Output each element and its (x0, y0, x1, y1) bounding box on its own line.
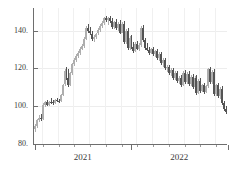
candle-body (101, 23, 103, 26)
gridline-vertical (73, 8, 74, 144)
y-axis-tick (34, 106, 38, 107)
gridline-vertical (152, 8, 153, 144)
gridline-vertical (199, 8, 200, 144)
candle-body (205, 86, 207, 92)
y-axis-tick (34, 31, 38, 32)
x-axis-minor-tick (122, 145, 123, 147)
candle-body (79, 49, 81, 54)
candle-body (66, 71, 68, 78)
x-axis-line (33, 144, 227, 145)
candle-body (60, 95, 62, 102)
gridline-vertical (42, 8, 43, 144)
x-axis-minor-tick (185, 145, 186, 147)
candle-body (131, 38, 133, 47)
candle-body (221, 89, 223, 103)
candle-body (73, 60, 75, 64)
gridline-vertical (58, 8, 59, 144)
candle-body (93, 37, 95, 39)
gridline-vertical (105, 8, 106, 144)
candle-body (138, 45, 140, 49)
y-axis-label: 80. (2, 140, 28, 148)
candle-body (34, 126, 36, 129)
x-axis-minor-tick (137, 145, 138, 147)
y-axis-label: 140. (2, 27, 28, 35)
candle-body (36, 120, 38, 126)
x-axis-minor-tick (74, 145, 75, 147)
candle-body (62, 85, 64, 95)
candle-body (42, 105, 44, 119)
x-axis-minor-tick (169, 145, 170, 147)
plot-area (34, 8, 227, 144)
candle-body (95, 34, 97, 38)
candle-body (144, 40, 146, 48)
x-axis-tick (131, 145, 132, 150)
candle-body (97, 30, 99, 34)
gridline-vertical (168, 8, 169, 144)
candle-body (75, 56, 77, 60)
x-axis-minor-tick (43, 145, 44, 147)
candle-body (142, 28, 144, 40)
x-axis-minor-tick (90, 145, 91, 147)
y-axis-label: 120. (2, 64, 28, 72)
candle-body (77, 53, 79, 56)
x-axis-minor-tick (59, 145, 60, 147)
y-axis-label: 100. (2, 102, 28, 110)
chart-root: 80.100.120.140.20212022 (0, 0, 244, 176)
gridline-vertical (136, 8, 137, 144)
x-axis-minor-tick (200, 145, 201, 147)
candle-body (81, 46, 83, 49)
x-axis-label: 2022 (159, 152, 199, 162)
x-axis-minor-tick (153, 145, 154, 147)
x-axis-label: 2021 (63, 152, 103, 162)
candle-body (83, 39, 85, 46)
x-axis-minor-tick (216, 145, 217, 147)
candle-body (225, 109, 227, 112)
x-axis-tick (35, 145, 36, 150)
x-axis-minor-tick (106, 145, 107, 147)
y-axis-line (33, 8, 34, 144)
candle-body (99, 26, 101, 30)
candle-body (71, 64, 73, 73)
x-axis-tick (228, 145, 229, 150)
candle-body (69, 73, 71, 85)
y-axis-tick (34, 68, 38, 69)
